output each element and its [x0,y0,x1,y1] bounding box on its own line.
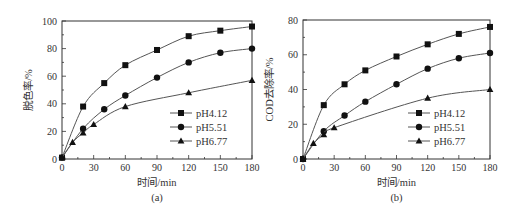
square-marker-icon [154,47,160,53]
x-tick-label: 0 [60,162,65,173]
figure: 0306090120150180020406080100时间/min脱色率/%(… [0,0,516,218]
triangle-marker-icon [90,121,97,127]
legend-item: pH6.77 [408,136,465,147]
circle-marker-icon [424,65,430,71]
y-axis-title: COD去除率/% [263,57,275,121]
circle-marker-icon [487,50,493,56]
circle-marker-icon [178,124,184,130]
y-tick-label: 40 [288,84,298,95]
y-tick-label: 0 [52,154,57,165]
chart-panel-a: 0306090120150180020406080100时间/min脱色率/%(… [22,16,260,205]
triangle-marker-icon [487,86,494,92]
legend-label: pH5.51 [196,122,227,133]
x-tick-label: 90 [392,162,402,173]
square-marker-icon [80,104,86,110]
square-marker-icon [394,53,400,59]
square-marker-icon [321,102,327,108]
legend-item: pH4.12 [170,108,227,119]
x-tick-label: 30 [329,162,339,173]
y-axis-title: 脱色率/% [22,69,34,111]
square-marker-icon [425,41,431,47]
y-tick-label: 80 [47,43,57,54]
x-tick-label: 30 [89,162,99,173]
circle-marker-icon [122,92,128,98]
y-tick-label: 20 [288,119,298,130]
x-tick-label: 60 [360,162,370,173]
square-marker-icon [178,110,184,116]
x-tick-label: 180 [483,162,498,173]
y-tick-label: 40 [47,98,57,109]
circle-marker-icon [185,59,191,65]
legend-label: pH6.77 [434,136,465,147]
square-marker-icon [217,28,223,34]
legend-item: pH5.51 [408,122,465,133]
square-marker-icon [487,24,493,30]
circle-marker-icon [456,55,462,61]
square-marker-icon [249,24,255,30]
x-tick-label: 0 [301,162,306,173]
circle-marker-icon [217,50,223,56]
legend-item: pH6.77 [170,136,227,147]
circle-marker-icon [341,112,347,118]
square-marker-icon [122,62,128,68]
x-tick-label: 90 [152,162,162,173]
panel-label: (a) [151,192,163,204]
legend-label: pH5.51 [434,122,465,133]
x-tick-label: 120 [181,162,196,173]
x-tick-label: 150 [451,162,466,173]
square-marker-icon [456,31,462,37]
y-tick-label: 60 [288,49,298,60]
x-axis-title: 时间/min [137,176,177,188]
circle-marker-icon [416,124,422,130]
circle-marker-icon [393,81,399,87]
legend-item: pH5.51 [170,122,227,133]
x-tick-label: 150 [213,162,228,173]
square-marker-icon [101,80,107,86]
legend: pH4.12pH5.51pH6.77 [170,108,227,147]
circle-marker-icon [249,45,255,51]
y-tick-label: 100 [42,16,57,27]
chart-panel-b: 0306090120150180020406080时间/minCOD去除率/%(… [263,15,498,205]
triangle-marker-icon [249,77,256,83]
square-marker-icon [186,33,192,39]
square-marker-icon [362,67,368,73]
x-tick-label: 60 [120,162,130,173]
legend-label: pH6.77 [196,136,227,147]
legend-label: pH4.12 [196,108,227,119]
square-marker-icon [342,81,348,87]
x-tick-label: 180 [245,162,260,173]
panel-label: (b) [390,192,403,204]
legend-item: pH4.12 [408,108,465,119]
x-tick-label: 120 [420,162,435,173]
square-marker-icon [416,110,422,116]
circle-marker-icon [362,98,368,104]
circle-marker-icon [101,106,107,112]
circle-marker-icon [154,74,160,80]
y-tick-label: 20 [47,126,57,137]
legend-label: pH4.12 [434,108,465,119]
legend: pH4.12pH5.51pH6.77 [408,108,465,147]
x-axis-title: 时间/min [377,176,417,188]
y-tick-label: 80 [288,15,298,26]
y-tick-label: 60 [47,71,57,82]
y-tick-label: 0 [293,154,298,165]
